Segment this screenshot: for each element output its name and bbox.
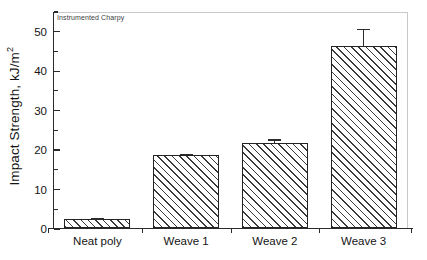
x-axis-tick bbox=[231, 228, 232, 233]
y-axis-tick-major bbox=[54, 110, 60, 111]
y-axis-tick-minor bbox=[54, 130, 58, 131]
x-axis-tick bbox=[319, 228, 320, 233]
x-axis-tick-label: Weave 2 bbox=[252, 235, 297, 247]
error-bar-cap bbox=[91, 218, 104, 219]
chart-figure: Impact Strength, kJ/m2 01020304050 Instr… bbox=[0, 0, 427, 260]
y-axis-tick-minor bbox=[54, 51, 58, 52]
bar-weave-1 bbox=[153, 155, 219, 228]
bar-weave-2 bbox=[242, 143, 308, 228]
y-axis-tick-major bbox=[54, 71, 60, 72]
x-axis-tick bbox=[142, 228, 143, 233]
x-axis-end-tick bbox=[48, 228, 49, 233]
y-axis-tick-major bbox=[54, 228, 60, 229]
y-axis-tick-label: 50 bbox=[34, 26, 47, 38]
y-axis-tick-minor bbox=[54, 209, 58, 210]
y-axis-tick-major bbox=[54, 189, 60, 190]
error-bar-stem bbox=[363, 29, 364, 47]
y-axis-title: Impact Strength, kJ/m2 bbox=[0, 0, 26, 232]
plot-area: Instrumented Charpy bbox=[53, 12, 408, 229]
x-axis-tick-label: Neat poly bbox=[73, 235, 122, 247]
y-axis-tick-label: 0 bbox=[41, 223, 47, 235]
y-axis-tick-major bbox=[54, 31, 60, 32]
chart-annotation: Instrumented Charpy bbox=[57, 14, 124, 21]
y-axis-tick-minor bbox=[54, 90, 58, 91]
y-axis-tick-labels: 01020304050 bbox=[26, 0, 50, 260]
plot-frame-top bbox=[53, 12, 408, 13]
y-axis-tick-major bbox=[54, 149, 60, 150]
y-axis-tick-minor bbox=[54, 11, 58, 12]
y-axis-title-exponent: 2 bbox=[5, 47, 15, 52]
error-bar-cap bbox=[268, 139, 281, 140]
x-axis-tick-label: Weave 1 bbox=[164, 235, 209, 247]
y-axis-tick-label: 40 bbox=[34, 65, 47, 77]
y-axis-tick-label: 30 bbox=[34, 105, 47, 117]
plot-frame-right bbox=[407, 12, 408, 229]
x-axis-end-tick bbox=[411, 228, 412, 233]
y-axis-line bbox=[53, 12, 54, 229]
y-axis-title-text: Impact Strength, kJ/m bbox=[6, 52, 21, 185]
bar-weave-3 bbox=[331, 46, 397, 228]
y-axis-tick-label: 10 bbox=[34, 184, 47, 196]
y-axis-tick-minor bbox=[54, 169, 58, 170]
bar-neat-poly bbox=[64, 219, 130, 228]
error-bar-cap bbox=[357, 29, 370, 30]
error-bar-cap bbox=[180, 154, 193, 155]
y-axis-tick-label: 20 bbox=[34, 144, 47, 156]
x-axis-tick-label: Weave 3 bbox=[341, 235, 386, 247]
